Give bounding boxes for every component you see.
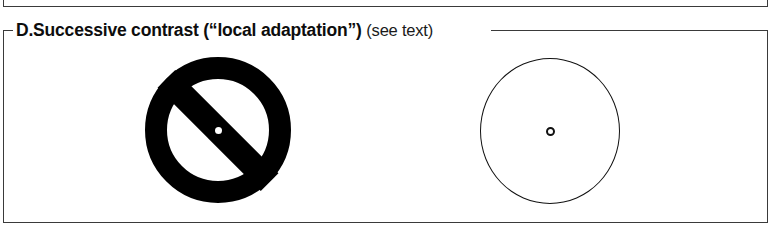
prohibition-sign-icon (145, 57, 291, 203)
previous-panel-remnant (3, 0, 768, 7)
prohibition-center-dot (215, 127, 222, 134)
fixation-point-icon (546, 127, 555, 136)
figure-page: D.Successive contrast (“local adaptation… (0, 0, 781, 232)
outline-circle-icon (480, 58, 620, 204)
figure-area (0, 30, 765, 223)
